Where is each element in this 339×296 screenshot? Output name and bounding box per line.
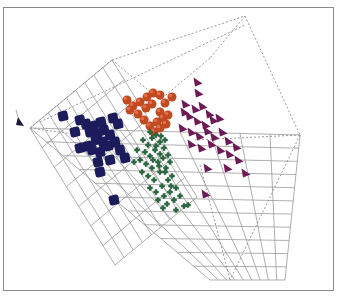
cone-marker — [179, 124, 188, 133]
cone-marker — [198, 144, 207, 153]
cross-marker — [140, 170, 145, 175]
cone-marker — [204, 164, 213, 173]
cross-marker — [166, 178, 171, 183]
sphere-marker — [164, 111, 173, 120]
cone-marker — [195, 89, 204, 98]
cross-marker — [154, 190, 159, 195]
cone-marker — [216, 114, 225, 123]
cluster-navy-series — [57, 110, 131, 206]
cone-marker — [211, 133, 220, 142]
cone-marker — [194, 117, 203, 126]
cross-marker — [158, 152, 163, 157]
cross-marker — [162, 194, 167, 199]
cube-marker — [57, 110, 69, 122]
axis-arrow-icon — [16, 110, 24, 126]
scatter-3d-plot — [0, 0, 339, 296]
cross-marker — [132, 160, 137, 165]
sphere-marker — [156, 91, 165, 100]
sphere-marker — [168, 93, 177, 102]
cone-marker — [226, 150, 235, 159]
cone-marker — [188, 140, 197, 149]
cross-marker — [159, 134, 164, 139]
cone-marker — [199, 102, 208, 111]
cone-marker — [194, 78, 203, 87]
cross-marker — [152, 178, 157, 183]
cube-marker — [92, 156, 104, 168]
cross-marker — [163, 138, 168, 143]
cross-marker — [170, 174, 175, 179]
cone-marker — [242, 169, 251, 178]
cone-marker — [202, 121, 211, 130]
cone-marker — [217, 146, 226, 155]
sphere-marker — [162, 120, 171, 129]
sphere-marker — [161, 99, 170, 108]
cone-marker — [202, 190, 211, 199]
cross-marker — [141, 138, 146, 143]
cone-marker — [219, 128, 228, 137]
cone-marker — [225, 137, 234, 146]
cross-marker — [146, 174, 151, 179]
cone-marker — [192, 105, 201, 114]
data-series — [57, 78, 250, 213]
sphere-marker — [148, 100, 157, 109]
cross-marker — [161, 156, 166, 161]
sphere-marker — [126, 106, 135, 115]
cross-marker — [148, 186, 153, 191]
cone-marker — [224, 164, 233, 173]
cross-marker — [165, 202, 170, 207]
cluster-green-series — [132, 130, 191, 213]
cone-marker — [182, 100, 191, 109]
